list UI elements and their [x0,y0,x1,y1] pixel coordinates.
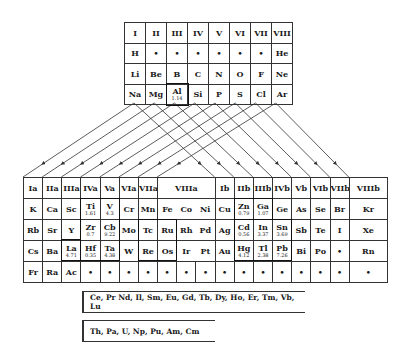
element-cell: Cs [24,241,43,262]
element-symbol: Re [142,246,154,256]
element-cell: Cb9.22 [100,220,119,241]
element-cell: • [196,262,215,283]
element-symbol: • [260,267,265,277]
element-cell: • [177,262,196,283]
element-symbol: Pd [199,225,211,235]
element-symbol: Te [315,225,325,235]
element-cell: Sc [62,199,81,220]
element-cell: Os [158,241,177,262]
element-cell: • [292,262,311,283]
element-symbol: W [124,246,133,256]
element-cell: • [253,262,272,283]
element-cell: • [330,241,349,262]
element-cell: Br [330,199,349,220]
element-cell: Po [311,241,330,262]
element-cell: Pb7.26 [273,241,292,262]
element-symbol: • [299,267,304,277]
element-symbol: P [216,89,222,99]
element-symbol: He [276,48,289,58]
element-symbol: Kr [363,204,374,214]
element-symbol: • [107,267,112,277]
element-cell: • [230,43,251,64]
element-value: 1.07 [254,211,272,216]
element-cell: Tl2.38 [253,241,272,262]
element-cell: Kr [349,199,387,220]
element-cell: Cu [215,199,234,220]
element-symbol: • [318,267,323,277]
element-symbol: Cu [219,204,231,214]
element-symbol: • [174,48,179,58]
subgroup-header: VIIb [330,178,349,199]
element-cell: Mn [138,199,157,220]
element-symbol: K [30,204,37,214]
element-symbol: • [222,267,227,277]
element-symbol: F [258,69,264,79]
element-value: 0.79 [235,211,253,216]
subgroup-header: VIIIb [349,178,387,199]
element-value: 2.38 [254,253,272,258]
element-cell: Cd0.56 [234,220,253,241]
element-symbol: Sb [296,225,307,235]
group-header: IV [188,23,209,44]
element-cell: Rn [349,241,387,262]
element-value: 0.7 [81,232,99,237]
element-symbol: • [165,267,170,277]
element-cell: Ca [43,199,62,220]
element-symbol: B [174,69,181,79]
subgroup-header: Vb [292,178,311,199]
element-cell: Ba [43,241,62,262]
element-cell: Zr0.7 [81,220,100,241]
element-symbol: Xe [363,225,374,235]
element-symbol: Be [150,69,162,79]
group-header: VIII [272,23,293,44]
element-cell: Ne [272,64,293,85]
element-cell: W [119,241,138,262]
element-symbol: • [153,48,158,58]
element-cell: Bi [292,241,311,262]
element-symbol: Ir [182,246,190,256]
subgroup-header: Ia [24,178,43,199]
element-symbol: Fe [162,204,172,214]
element-cell: • [234,262,253,283]
long-periodic-table: IaIIaIIIaIVaVaVIaVIIaVIIIaIbIIbIIIbIVbVb… [23,177,388,283]
element-cell: S [230,84,251,105]
element-symbol: Po [315,246,326,256]
element-symbol: I [338,225,342,235]
element-cell: I [330,220,349,241]
element-symbol: Ca [46,204,58,214]
element-symbol: Cr [124,204,135,214]
element-cell: Li [125,64,146,85]
subgroup-header: IVa [81,178,100,199]
element-cell: Pd [196,220,215,241]
element-symbol: • [366,267,371,277]
element-cell: O [230,64,251,85]
element-symbol: S [237,89,243,99]
element-symbol: Ac [66,267,77,277]
group-header: VII [251,23,272,44]
element-symbol: Cs [28,246,39,256]
element-cell: B [167,64,188,85]
element-cell: Co [177,199,196,220]
element-symbol: • [337,267,342,277]
element-cell: Hf0.35 [81,241,100,262]
group-header: V [209,23,230,44]
element-symbol: Br [334,204,345,214]
element-symbol: Mn [141,204,156,214]
element-symbol: Ag [219,225,231,235]
element-cell: K [24,199,43,220]
element-symbol: Sc [66,204,77,214]
element-symbol: • [237,48,242,58]
element-cell: Te [311,220,330,241]
element-cell: Cr [119,199,138,220]
subgroup-header: IVb [273,178,292,199]
subgroup-header: Ib [215,178,234,199]
period-row: H••••••He [125,43,293,64]
subgroup-header: IIb [234,178,253,199]
element-cell: Sb [292,220,311,241]
subgroup-header: Va [100,178,119,199]
element-cell: Mo [119,220,138,241]
element-cell: Sn3.69 [273,220,292,241]
group-header: VI [230,23,251,44]
element-cell: Si [188,84,209,105]
element-value: 4.3 [101,211,119,216]
